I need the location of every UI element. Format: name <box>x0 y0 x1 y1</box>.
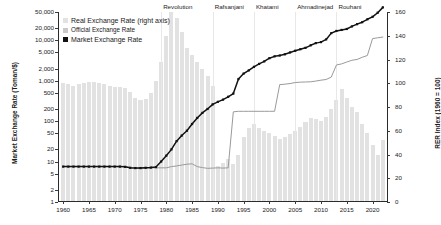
y-axis-left-tick-label: 10,000 <box>35 37 54 43</box>
x-axis-tick <box>295 201 296 204</box>
market-rate-point <box>206 108 208 110</box>
market-rate-point <box>371 16 373 18</box>
legend-item[interactable]: Real Exchange Rate (right axis) <box>63 16 170 25</box>
y-axis-right-tick <box>387 178 390 179</box>
y-axis-left-tick-label: 1 <box>51 199 54 205</box>
regime-label: Ahmadinejad <box>297 4 333 10</box>
x-axis-tick-label: 1975 <box>134 207 148 213</box>
y-axis-right-tick <box>387 83 390 84</box>
y-axis-right-tick-label: 60 <box>395 128 402 134</box>
y-axis-left-tick-label: 1,000 <box>39 78 54 84</box>
market-rate-point <box>78 166 80 168</box>
market-rate-point <box>356 23 358 25</box>
market-rate-point <box>366 18 368 20</box>
market-rate-point <box>170 148 172 150</box>
x-axis-tick <box>321 201 322 204</box>
y-axis-left-tick <box>55 149 58 150</box>
y-axis-right-tick <box>387 60 390 61</box>
x-axis-tick <box>63 201 64 204</box>
y-axis-right-tick-label: 0 <box>395 199 398 205</box>
x-axis-tick <box>115 201 116 204</box>
market-rate-point <box>62 166 64 168</box>
market-rate-point <box>186 130 188 132</box>
market-rate-point <box>119 166 121 168</box>
y-axis-left-tick <box>55 202 58 203</box>
y-axis-left-tick-label: 50 <box>47 130 54 136</box>
y-axis-right-tick-label: 120 <box>395 57 405 63</box>
market-rate-point <box>263 60 265 62</box>
y-axis-left-tick <box>55 121 58 122</box>
market-rate-point <box>294 50 296 52</box>
market-rate-point <box>382 6 384 8</box>
y-axis-left-tick-label: 20 <box>47 146 54 152</box>
market-rate-point <box>361 21 363 23</box>
market-rate-point <box>196 117 198 119</box>
market-rate-point <box>201 112 203 114</box>
market-rate-point <box>284 53 286 55</box>
official-rate-line <box>63 37 383 168</box>
plot-area: 1251020501002005001,0002,0005,00010,0002… <box>58 12 388 202</box>
y-axis-right-tick-label: 20 <box>395 175 402 181</box>
x-axis-tick-label: 1960 <box>56 207 70 213</box>
market-rate-point <box>279 54 281 56</box>
market-rate-point <box>227 96 229 98</box>
market-rate-point <box>248 69 250 71</box>
y-axis-left-tick-label: 100 <box>44 118 54 124</box>
y-axis-left-tick-label: 10 <box>47 159 54 165</box>
market-rate-point <box>165 155 167 157</box>
y-axis-left-tick <box>55 109 58 110</box>
y-axis-left-tick <box>55 81 58 82</box>
y-axis-right-tick <box>387 131 390 132</box>
market-rate-point <box>243 72 245 74</box>
y-axis-left-tick-label: 20,000 <box>35 25 54 31</box>
market-rate-point <box>222 99 224 101</box>
market-rate-point <box>72 166 74 168</box>
y-axis-left-tick-label: 500 <box>44 90 54 96</box>
x-axis-tick-label: 2020 <box>366 207 380 213</box>
market-rate-point <box>155 166 157 168</box>
y-axis-left-tick <box>55 190 58 191</box>
legend-swatch-icon <box>63 37 68 42</box>
legend-item[interactable]: Market Exchange Rate <box>63 35 170 44</box>
y-axis-left-line <box>58 12 59 202</box>
regime-label: Khatami <box>256 4 279 10</box>
y-axis-left-tick-label: 5 <box>51 171 54 177</box>
y-axis-right-tick-label: 100 <box>395 80 405 86</box>
x-axis-tick <box>141 201 142 204</box>
x-axis-tick <box>373 201 374 204</box>
y-axis-left-tick <box>55 174 58 175</box>
market-rate-point <box>88 166 90 168</box>
y-axis-left-tick <box>55 40 58 41</box>
y-axis-left-tick <box>55 28 58 29</box>
y-axis-left-tick <box>55 69 58 70</box>
x-axis-tick <box>166 201 167 204</box>
market-rate-point <box>299 48 301 50</box>
market-rate-point <box>335 30 337 32</box>
market-rate-point <box>232 92 234 94</box>
y-axis-right-tick-label: 40 <box>395 152 402 158</box>
y-axis-right-tick <box>387 155 390 156</box>
market-rate-point <box>351 25 353 27</box>
market-rate-point <box>108 166 110 168</box>
market-rate-point <box>377 12 379 14</box>
legend-swatch-icon <box>63 18 68 23</box>
regime-label: Rouhani <box>338 4 361 10</box>
y-axis-right-tick <box>387 202 390 203</box>
legend-swatch-icon <box>63 28 68 33</box>
y-axis-left-tick <box>55 12 58 13</box>
market-rate-point <box>304 47 306 49</box>
market-rate-point <box>310 44 312 46</box>
x-axis-tick-label: 2015 <box>340 207 354 213</box>
y-axis-right-tick <box>387 107 390 108</box>
market-rate-point <box>289 51 291 53</box>
y-axis-right-tick <box>387 12 390 13</box>
y-axis-left-tick-label: 2,000 <box>39 66 54 72</box>
market-rate-point <box>212 103 214 105</box>
market-rate-point <box>139 167 141 169</box>
x-axis-tick <box>347 201 348 204</box>
x-axis-tick-label: 1965 <box>82 207 96 213</box>
market-rate-point <box>325 38 327 40</box>
legend-item[interactable]: Official Exchange Rate <box>63 26 170 35</box>
market-rate-point <box>320 41 322 43</box>
x-axis-tick <box>192 201 193 204</box>
